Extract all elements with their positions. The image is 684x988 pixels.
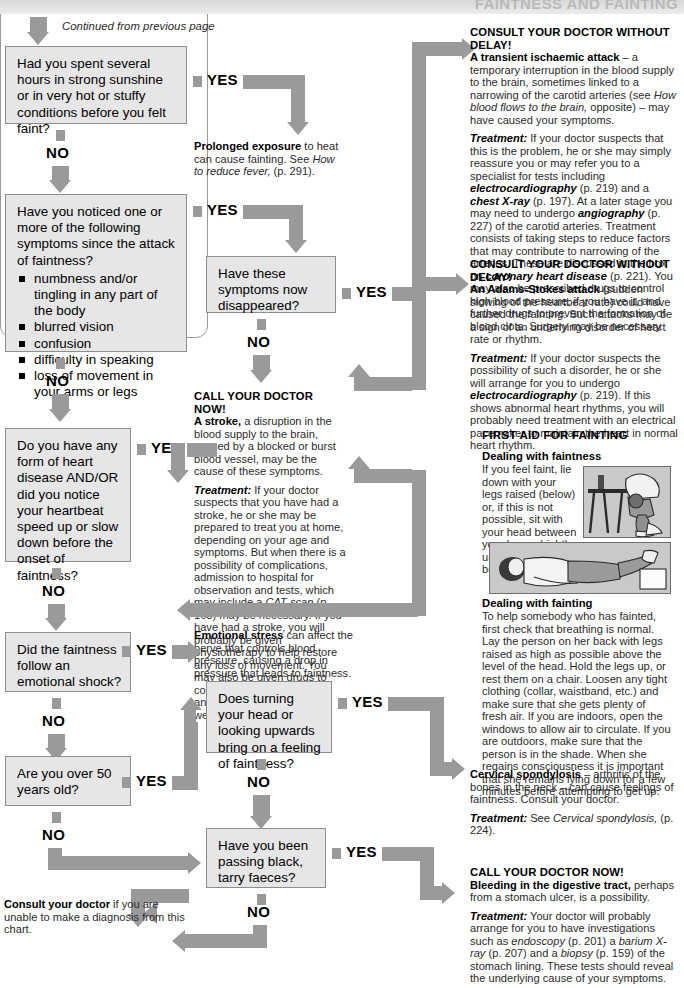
no-stub-q2: [56, 358, 65, 369]
treatment-part: If your doctor suspects that you have ha…: [194, 484, 346, 609]
no-label-q7: NO: [247, 773, 270, 790]
yes-stub-q7: [338, 698, 347, 709]
yes-label-q2: YES: [207, 201, 238, 218]
treatment-ital: endoscopy: [511, 935, 565, 947]
no-bar-q5: [48, 734, 65, 749]
no-label-q5: NO: [42, 712, 65, 729]
no-label-q3: NO: [247, 333, 270, 350]
entry-connector-bar: [30, 17, 47, 33]
treatment-label: Treatment:: [470, 910, 527, 922]
no-stub-q4: [52, 568, 61, 579]
yes-label-q1: YES: [207, 71, 238, 88]
treatment-label: Treatment:: [470, 812, 527, 824]
outcome-emotional-stress: Emotional stress can affect the nerve th…: [194, 629, 354, 679]
question-box-sunshine[interactable]: Had you spent several hours in strong su…: [5, 46, 187, 124]
no-stub-q6: [52, 812, 61, 823]
yes-bar-v-q7: [430, 697, 444, 763]
yes-stub-q5: [122, 646, 131, 657]
question-box-heart[interactable]: Do you have any form of heart disease AN…: [5, 428, 131, 562]
yes-bar-v-q3: [412, 55, 426, 301]
treatment-part: (p. 207) and a: [485, 947, 560, 959]
treatment-ital: chest X-ray: [470, 195, 530, 207]
heart-rail-v: [412, 470, 426, 616]
treatment-ital: angiography: [578, 207, 645, 219]
question-text: Had you spent several hours in strong su…: [17, 56, 166, 136]
continued-caption: Continued from previous page: [62, 20, 215, 32]
heart-rail-connect: [354, 469, 412, 483]
first-aid-title: FIRST AID FOR FAINTING: [482, 428, 628, 441]
question-box-tarry-faeces[interactable]: Have you been passing black, tarry faece…: [206, 828, 326, 888]
yes-bar-v-q8: [420, 847, 434, 887]
list-item: difficulty in speaking: [19, 352, 178, 368]
yes-arrowhead-q8: [442, 882, 455, 904]
outcome-lead: A stroke,: [194, 415, 241, 427]
illustration-sitting-head-between-knees: [583, 466, 671, 538]
yes-bar-elbow-q6: [184, 709, 196, 723]
list-item: blurred vision: [19, 319, 178, 335]
question-box-turning-head[interactable]: Does turning your head or looking upward…: [206, 681, 332, 753]
adams-rail-top: [412, 277, 458, 291]
treatment-part: (p. 219) and a: [577, 182, 649, 194]
yes-arrowhead-q4: [167, 470, 189, 483]
outcome-lead: Emotional stress: [194, 629, 283, 641]
question-text: Does turning your head or looking upward…: [218, 691, 321, 771]
question-box-over50[interactable]: Are you over 50 years old?: [5, 756, 131, 806]
no-stub-q5: [52, 698, 61, 709]
outcome-heading: CALL YOUR DOCTOR NOW!: [194, 390, 313, 415]
no-bar-q2: [52, 394, 69, 410]
yes-arrowhead-q5: [188, 641, 201, 663]
no-bar-q1: [52, 166, 69, 181]
treatment-label: Treatment:: [470, 132, 527, 144]
yes-label-q8: YES: [346, 843, 377, 860]
question-box-symptoms[interactable]: Have you noticed one or more of the foll…: [5, 194, 187, 352]
yes-bar-v-q2: [289, 205, 303, 241]
adams-rail-h: [354, 377, 412, 391]
no-arrowhead-q4: [45, 618, 67, 631]
page-header: FAINTNESS AND FAINTING: [0, 0, 684, 14]
no-stub-q3: [257, 319, 266, 330]
adams-rail-v: [412, 290, 426, 390]
yes-arrowhead-q2: [285, 240, 307, 253]
outcome-lead: A transient ischaemic attack: [470, 51, 619, 63]
question-text: Are you over 50 years old?: [17, 766, 112, 797]
outcome-heading: CALL YOUR DOCTOR NOW!: [470, 866, 624, 878]
no-label-q8: NO: [247, 903, 270, 920]
treatment-label: Treatment:: [470, 352, 527, 364]
outcome-cervical-spondylosis: Cervical spondylosis – arthritis of the …: [470, 768, 678, 843]
no-arrowhead-q2: [49, 409, 71, 422]
no-bar-q4: [48, 604, 65, 619]
outcome-digestive-bleeding: CALL YOUR DOCTOR NOW! Bleeding in the di…: [470, 866, 678, 988]
question-text: Did the faintness follow an emotional sh…: [17, 642, 121, 689]
outcome-final: Consult your doctor if you are unable to…: [4, 898, 189, 936]
adams-arrowhead-icon: [456, 273, 469, 295]
no-bar-h-q8: [185, 934, 267, 948]
no-bar-q3: [253, 355, 270, 371]
outcome-tail: (p. 291).: [270, 165, 314, 177]
first-aid-fainting-heading: Dealing with fainting: [482, 597, 592, 609]
treatment-part: See: [527, 812, 553, 824]
no-arrowhead-q1: [49, 180, 71, 193]
no-arrowhead-q3: [250, 370, 272, 383]
yes-stub-q6: [122, 777, 131, 788]
yes-stub-q1: [193, 76, 202, 87]
heart-rail-h: [190, 603, 418, 617]
outcome-lead: Cervical spondylosis: [470, 768, 581, 780]
question-box-disappeared[interactable]: Have these symptoms now disappeared?: [206, 256, 336, 313]
yes-bar-v-q6: [184, 722, 198, 790]
adams-rail-up-arrow: [348, 364, 370, 377]
yes-bar-out-q8: [420, 886, 444, 900]
question-text: Have these symptoms now disappeared?: [218, 266, 307, 313]
yes-label-q7: YES: [352, 693, 383, 710]
no-arrowhead-q6: [188, 852, 201, 874]
yes-stub-q8: [332, 848, 341, 859]
list-item: numbness and/or tingling in any part of …: [19, 271, 178, 320]
no-label-q1: NO: [46, 144, 69, 161]
question-box-emotional[interactable]: Did the faintness follow an emotional sh…: [5, 632, 131, 692]
outcome-lead: An Adams-Stokes attack: [470, 283, 600, 295]
symptom-list: numbness and/or tingling in any part of …: [17, 271, 178, 401]
yes-bar-v-q1: [291, 75, 305, 123]
treatment-ital: electrocardiography: [470, 389, 577, 401]
yes-arrowhead-q6: [180, 697, 202, 710]
lying-figure-svg: [490, 543, 671, 594]
outcome-lead: Consult your doctor: [4, 898, 110, 910]
